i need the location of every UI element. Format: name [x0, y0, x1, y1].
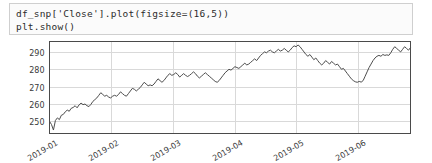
x-tick-label: 2019-06	[334, 138, 367, 163]
x-tick-label: 2019-02	[87, 138, 120, 163]
grid-lines	[50, 42, 411, 134]
x-tick-label: 2019-01	[26, 138, 59, 163]
y-tick-label: 280	[29, 66, 44, 75]
x-tick-label: 2019-05	[272, 138, 305, 163]
code-cell[interactable]: df_snp['Close'].plot(figsize=(16,5)) plt…	[9, 3, 413, 35]
chart-output: 250260270280290 2019-012019-022019-03201…	[0, 36, 432, 163]
x-tick-label: 2019-04	[211, 138, 244, 163]
y-tick-label: 290	[29, 49, 44, 58]
x-axis-tick-labels: 2019-012019-022019-032019-042019-052019-…	[26, 138, 367, 163]
y-tick-label: 270	[29, 84, 44, 93]
line-chart: 250260270280290 2019-012019-022019-03201…	[0, 36, 432, 163]
y-tick-label: 260	[29, 101, 44, 110]
code-line-2: plt.show()	[16, 20, 406, 33]
code-line-1: df_snp['Close'].plot(figsize=(16,5))	[16, 7, 406, 20]
y-tick-label: 250	[29, 118, 44, 127]
x-tick-label: 2019-03	[149, 138, 182, 163]
y-axis-tick-labels: 250260270280290	[29, 49, 44, 127]
